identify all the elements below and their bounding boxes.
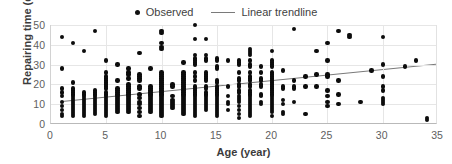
gridline-horizontal [51,45,436,46]
x-axis-tick-label: 30 [370,130,394,141]
data-point [137,51,141,55]
data-point [336,78,340,82]
legend-item-observed: Observed [135,7,194,18]
data-point [325,58,329,62]
data-point [137,114,141,118]
data-point [325,88,329,92]
data-point [126,110,130,114]
data-point [381,35,385,39]
data-point [414,58,418,62]
data-point [336,102,340,106]
data-point [314,84,318,88]
x-axis-tick-label: 5 [93,130,117,141]
data-point [248,53,252,57]
data-point [159,47,163,51]
data-point [381,62,385,66]
data-point [381,88,385,92]
x-axis-tick-label: 25 [314,130,338,141]
gridline-horizontal [51,104,436,105]
data-point [115,62,119,66]
data-point [204,58,208,62]
x-axis-tick-label: 20 [259,130,283,141]
data-point [159,114,163,118]
x-axis-tick-label: 15 [204,130,228,141]
data-point [259,64,263,68]
legend-dot-icon [135,10,140,15]
linear-trendline [51,25,436,123]
legend-line-icon [211,12,235,13]
data-point [193,62,197,66]
data-point [303,84,307,88]
data-point [170,84,174,88]
scatter-chart: Observed Linear trendline Repairing time… [0,0,452,164]
x-axis-tick-label: 35 [425,130,449,141]
data-point [325,104,329,108]
plot-area [50,25,437,124]
data-point [347,35,351,39]
data-point [193,78,197,82]
data-point [381,74,385,78]
data-point [292,86,296,90]
data-point [303,74,307,78]
x-axis-title: Age (year) [50,146,437,158]
y-axis-title: Repairing time (day) [21,0,33,87]
x-axis-tick-label: 0 [38,130,62,141]
data-point [226,58,230,62]
data-point [204,78,208,82]
data-point [126,76,130,80]
data-point [148,110,152,114]
legend-label-linear-trendline: Linear trendline [241,7,317,18]
data-point [369,68,373,72]
data-point [193,37,197,41]
data-point [237,62,241,66]
data-point [314,72,318,76]
data-point [281,86,285,90]
data-point [314,49,318,53]
gridline-horizontal [51,84,436,85]
chart-legend: Observed Linear trendline [0,2,452,22]
gridline-horizontal [51,65,436,66]
data-point [226,84,230,88]
data-point [148,66,152,70]
data-point [137,86,141,90]
data-point [137,78,141,82]
legend-label-observed: Observed [146,7,194,18]
data-point [60,66,64,70]
data-point [215,66,219,70]
data-point [71,80,75,84]
data-point [115,78,119,82]
data-point [115,110,119,114]
x-axis-tick-label: 10 [149,130,173,141]
data-point [215,58,219,62]
data-point [303,112,307,116]
data-point [237,70,241,74]
data-point [325,74,329,78]
data-point [259,70,263,74]
data-point [336,92,340,96]
data-point [181,60,185,64]
data-point [204,37,208,41]
y-axis-tick-label: 0 [23,119,45,130]
data-point [193,23,197,27]
data-point [248,64,252,68]
legend-item-linear-trendline: Linear trendline [211,7,317,18]
y-axis-tick-label: 10 [23,99,45,110]
data-point [336,29,340,33]
data-point [403,64,407,68]
data-point [159,31,163,35]
data-point [259,84,263,88]
gridline-horizontal [51,25,436,26]
data-point [325,41,329,45]
